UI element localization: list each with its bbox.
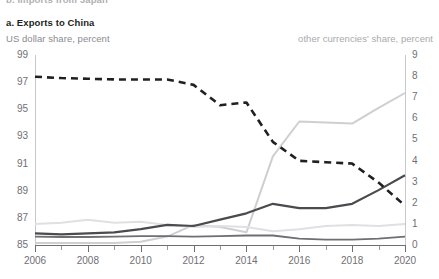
- x-tick-mark: [35, 246, 36, 252]
- x-tick-mark: [114, 246, 115, 250]
- x-tick-mark: [299, 246, 300, 252]
- series-line: [35, 236, 405, 240]
- left-tick-label: 89: [2, 186, 28, 196]
- x-tick-label: 2020: [383, 255, 427, 267]
- left-tick-label: 99: [2, 50, 28, 60]
- right-tick-label: 2: [412, 198, 432, 208]
- x-tick-label: 2018: [330, 255, 374, 267]
- x-tick-label: 2010: [119, 255, 163, 267]
- right-tick-label: 6: [412, 113, 432, 123]
- x-tick-label: 2012: [172, 255, 216, 267]
- right-tick-label: 5: [412, 134, 432, 144]
- x-tick-mark: [194, 246, 195, 252]
- x-tick-mark: [352, 246, 353, 252]
- figure-panel-a: b. Imports from Japan a. Exports to Chin…: [0, 0, 439, 279]
- x-tick-mark: [88, 246, 89, 252]
- plot-area: [35, 55, 405, 245]
- x-tick-mark: [405, 246, 406, 252]
- left-tick-label: 95: [2, 104, 28, 114]
- series-line: [35, 220, 405, 232]
- x-tick-mark: [220, 246, 221, 250]
- x-tick-mark: [326, 246, 327, 250]
- right-tick-label: 3: [412, 177, 432, 187]
- x-tick-label: 2016: [277, 255, 321, 267]
- right-tick-label: 9: [412, 50, 432, 60]
- left-tick-label: 93: [2, 131, 28, 141]
- x-tick-mark: [379, 246, 380, 250]
- panel-title: a. Exports to China: [6, 17, 94, 28]
- left-tick-label: 87: [2, 213, 28, 223]
- right-tick-label: 8: [412, 71, 432, 81]
- left-tick-label: 91: [2, 159, 28, 169]
- x-tick-label: 2014: [224, 255, 268, 267]
- x-tick-mark: [141, 246, 142, 252]
- left-tick-label: 97: [2, 77, 28, 87]
- left-axis-title: US dollar share, percent: [6, 33, 110, 44]
- series-lines: [35, 55, 405, 245]
- right-axis-spine: [405, 55, 406, 246]
- x-tick-label: 2008: [66, 255, 110, 267]
- series-line: [35, 77, 405, 206]
- right-tick-label: 1: [412, 219, 432, 229]
- right-tick-label: 0: [412, 240, 432, 250]
- right-tick-label: 7: [412, 92, 432, 102]
- x-tick-label: 2006: [13, 255, 57, 267]
- x-tick-mark: [61, 246, 62, 250]
- right-axis-title: other currencies' share, percent: [298, 33, 433, 44]
- right-tick-label: 4: [412, 156, 432, 166]
- x-tick-mark: [273, 246, 274, 250]
- x-tick-mark: [167, 246, 168, 250]
- clipped-header-above: b. Imports from Japan: [6, 0, 108, 5]
- left-tick-label: 85: [2, 240, 28, 250]
- x-tick-mark: [246, 246, 247, 252]
